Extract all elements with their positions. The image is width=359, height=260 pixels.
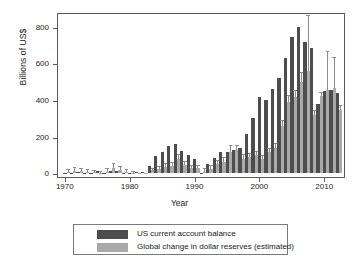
errorbar-cap (326, 51, 330, 52)
x-tick-label: 1970 (45, 182, 85, 191)
errorbar-cap (235, 145, 239, 146)
errorbar-cap (112, 163, 116, 164)
bars-container (58, 14, 344, 177)
y-tick-label: 800 (9, 23, 49, 32)
errorbar-whisker (327, 52, 328, 90)
errorbar-cap (118, 166, 122, 167)
errorbar-cap (229, 145, 233, 146)
legend-label-current-account: US current account balance (137, 229, 236, 238)
errorbar-cap (306, 15, 310, 16)
chart-figure: Billions of US$ Year 0200400600800 19701… (0, 0, 359, 260)
errorbar-cap (86, 169, 90, 170)
y-tick-label: 600 (9, 59, 49, 68)
legend-label-dollar-reserves: Global change in dollar reserves (estima… (137, 242, 294, 251)
legend-item-current-account: US current account balance (74, 228, 287, 241)
errorbar-cap (99, 171, 103, 172)
errorbar-cap (66, 169, 70, 170)
x-tick-mark (65, 178, 66, 182)
legend-item-dollar-reserves: Global change in dollar reserves (estima… (74, 241, 287, 254)
x-axis-title: Year (0, 198, 359, 208)
x-tick-label: 2000 (239, 182, 279, 191)
errorbar-cap (73, 167, 77, 168)
errorbar-whisker (301, 73, 302, 81)
errorbar-cap (79, 168, 83, 169)
errorbar-cap (196, 165, 200, 166)
x-tick-mark (130, 178, 131, 182)
x-tick-mark (324, 178, 325, 182)
x-tick-label: 1980 (110, 182, 150, 191)
errorbar-whisker (308, 16, 309, 71)
y-tick-label: 400 (9, 96, 49, 105)
errorbar-whisker (334, 58, 335, 88)
x-tick-label: 2010 (304, 182, 344, 191)
bar-dollar-reserves (339, 110, 342, 173)
errorbar-cap (339, 105, 343, 106)
errorbar-cap (332, 57, 336, 58)
x-tick-mark (259, 178, 260, 182)
y-tick-label: 200 (9, 133, 49, 142)
plot-area (57, 13, 345, 178)
legend-swatch-dark (97, 230, 128, 239)
legend-swatch-light (97, 243, 128, 252)
x-tick-mark (195, 178, 196, 182)
errorbar-cap (125, 169, 129, 170)
x-tick-label: 1990 (175, 182, 215, 191)
errorbar-cap (105, 168, 109, 169)
y-tick-label: 0 (9, 169, 49, 178)
chart-legend: US current account balance Global change… (73, 224, 288, 255)
